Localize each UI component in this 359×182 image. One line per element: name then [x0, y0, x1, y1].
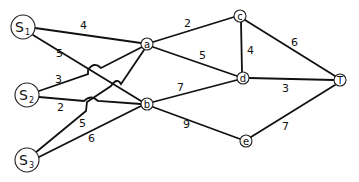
weight-b-e: 9 — [183, 118, 190, 131]
node-b: b — [141, 98, 153, 110]
weight-a-c: 2 — [184, 17, 191, 30]
svg-text:b: b — [144, 99, 150, 110]
weight-e-t: 7 — [282, 120, 289, 133]
svg-text:3: 3 — [29, 161, 34, 170]
source-node-s2: S 2 — [15, 83, 39, 107]
node-t-sink: T — [334, 74, 346, 86]
svg-text:S: S — [19, 87, 28, 103]
weight-s3-a: 5 — [79, 117, 86, 130]
svg-text:e: e — [243, 136, 249, 147]
svg-text:a: a — [144, 39, 150, 50]
svg-text:S: S — [15, 19, 24, 35]
svg-text:1: 1 — [25, 28, 30, 37]
weight-s1-a: 4 — [80, 19, 87, 32]
network-diagram: 4 5 3 2 5 6 2 5 4 6 3 7 9 7 S 1 S 2 S 3 … — [0, 0, 359, 182]
weight-s2-a: 3 — [55, 73, 62, 86]
node-c: c — [234, 10, 246, 22]
weight-c-t: 6 — [291, 36, 298, 49]
svg-text:c: c — [237, 11, 243, 22]
edge-s1-b — [33, 35, 141, 101]
source-node-s3: S 3 — [15, 148, 39, 172]
svg-text:T: T — [336, 75, 344, 86]
svg-text:2: 2 — [29, 96, 34, 105]
edge-c-t — [245, 20, 335, 76]
node-a: a — [141, 38, 153, 50]
weight-d-t: 3 — [282, 82, 289, 95]
edge-b-d — [153, 80, 237, 102]
edge-a-c — [153, 17, 234, 42]
weight-s1-b: 5 — [56, 47, 63, 60]
edge-d-t — [249, 78, 334, 80]
edge-a-d — [153, 47, 237, 76]
edge-c-d — [241, 22, 242, 72]
source-node-s1: S 1 — [11, 15, 35, 39]
edge-e-t — [251, 85, 335, 137]
svg-text:S: S — [19, 152, 28, 168]
weight-b-d: 7 — [177, 81, 184, 94]
weight-c-d: 4 — [247, 44, 254, 57]
edge-b-e — [153, 107, 240, 139]
weight-s3-b: 6 — [88, 132, 95, 145]
node-d: d — [237, 72, 249, 84]
edges — [33, 17, 335, 158]
weight-s2-b: 2 — [57, 101, 64, 114]
weight-a-d: 5 — [199, 49, 206, 62]
svg-text:d: d — [240, 73, 246, 84]
edge-s1-a — [35, 28, 141, 43]
node-e: e — [240, 135, 252, 147]
